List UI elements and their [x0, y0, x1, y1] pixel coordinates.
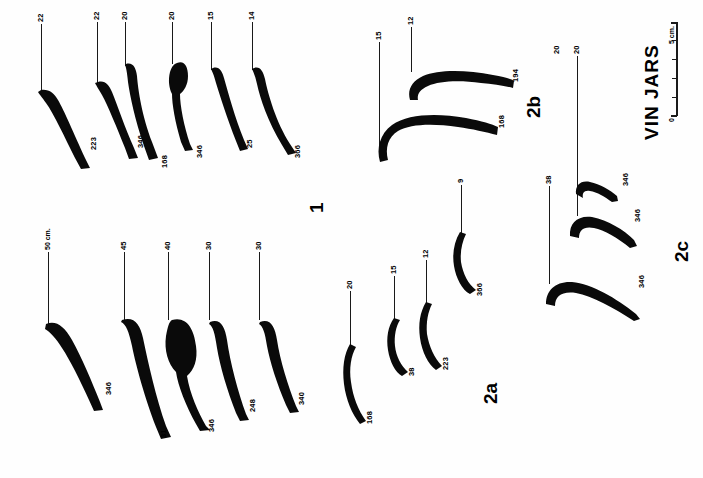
vessel-profile — [34, 320, 106, 412]
rim-diameter-label: 9 — [457, 179, 465, 183]
rim-diameter-label: 20 — [553, 45, 561, 54]
rim-diameter-label: 20 — [346, 280, 354, 289]
leader-line — [211, 22, 212, 70]
rim-diameter-label: 22 — [37, 13, 45, 22]
vessel-profile — [374, 112, 500, 164]
vessel-profile — [405, 68, 515, 102]
vessel-number-label: 168 — [161, 155, 169, 168]
leader-line — [350, 291, 351, 346]
vessel-number-label: 366 — [294, 145, 302, 158]
vessel-number-label: 168 — [498, 115, 506, 128]
leader-line — [209, 252, 210, 320]
vessel-number-label: 340 — [298, 392, 306, 405]
rim-diameter-label: 30 — [205, 241, 213, 250]
rim-diameter-label: 20 — [168, 11, 176, 20]
vessel-number-label: 38 — [408, 367, 416, 376]
group-label-2c: 2c — [672, 241, 691, 262]
rim-diameter-label: 20 — [573, 45, 581, 54]
vessel-number-label: 346 — [634, 209, 642, 222]
leader-line — [125, 22, 126, 66]
rim-diameter-label: 15 — [390, 265, 398, 274]
group-label-2a: 2a — [481, 383, 500, 404]
vessel-number-label: 194 — [512, 69, 520, 82]
leader-line — [259, 252, 260, 320]
rim-diameter-label: 15 — [375, 31, 383, 40]
leader-line — [48, 252, 49, 324]
scale-max-label: 5 cm. — [668, 26, 675, 44]
rim-diameter-label: 45 — [120, 241, 128, 250]
rim-diameter-label: 12 — [422, 249, 430, 258]
vessel-number-label: 366 — [476, 283, 484, 296]
vessel-number-label: 346 — [638, 275, 646, 288]
leader-line — [461, 185, 462, 233]
rim-diameter-label: 22 — [93, 11, 101, 20]
leader-line — [549, 186, 550, 284]
group-label-2b: 2b — [524, 96, 543, 118]
vessel-number-label: 346 — [622, 173, 630, 186]
vessel-number-label: 168 — [366, 411, 374, 424]
leader-line — [97, 22, 98, 84]
vessel-profile — [566, 212, 638, 250]
group-label-1: 1 — [307, 202, 326, 213]
vessel-profile — [542, 278, 642, 322]
rim-diameter-label: 14 — [248, 11, 256, 20]
rim-diameter-label: 20 — [121, 11, 129, 20]
leader-line — [172, 22, 173, 64]
scale-zero-label: 0 — [668, 118, 675, 122]
vessel-profile — [572, 178, 620, 204]
leader-line — [394, 276, 395, 320]
vessel-number-label: 223 — [442, 357, 450, 370]
rim-diameter-label: 15 — [207, 11, 215, 20]
rim-diameter-label: 30 — [255, 241, 263, 250]
leader-line — [41, 24, 42, 92]
rim-diameter-label: 40 — [164, 241, 172, 250]
rim-diameter-label: 12 — [407, 16, 415, 25]
leader-line — [426, 260, 427, 304]
plate-title: VIN JARS — [642, 44, 661, 140]
scale-caption: 50 cm. — [44, 228, 51, 250]
leader-line — [124, 252, 125, 320]
leader-line — [252, 22, 253, 70]
leader-line — [411, 27, 412, 72]
leader-line — [168, 252, 169, 320]
rim-diameter-label: 38 — [545, 175, 553, 184]
vessel-profile — [244, 66, 306, 156]
illustration-plate: 22 223 22 346 20 168 20 346 15 25 14 — [0, 0, 703, 478]
